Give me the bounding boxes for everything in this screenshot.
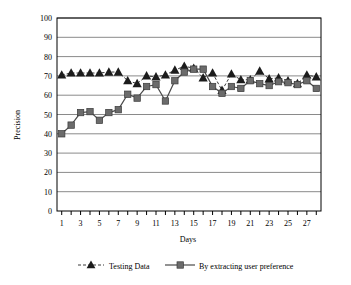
data-point (247, 78, 253, 84)
data-point (304, 78, 310, 84)
data-point (209, 83, 215, 89)
data-point (106, 109, 112, 115)
data-point (181, 69, 187, 75)
data-point (162, 98, 168, 104)
y-tick-label-90: 90 (44, 33, 52, 42)
y-tick-label-40: 40 (44, 130, 52, 139)
data-point (115, 106, 121, 112)
data-point (285, 79, 291, 85)
data-point (275, 78, 281, 84)
x-tick-label-7: 7 (116, 219, 120, 228)
data-point (294, 81, 300, 87)
data-point (191, 66, 197, 72)
x-tick-label-1: 1 (60, 219, 64, 228)
data-point (257, 80, 263, 86)
x-tick-label-15: 15 (190, 219, 198, 228)
y-tick-label-60: 60 (44, 91, 52, 100)
legend-label-by-extracting-user-preference: By extracting user preference (199, 262, 294, 271)
precision-vs-days-chart: 0102030405060708090100 13579111315171921… (0, 0, 351, 285)
data-point (87, 108, 93, 114)
x-tick-label-5: 5 (97, 219, 101, 228)
data-point (68, 122, 74, 128)
y-tick-label-80: 80 (44, 53, 52, 62)
x-tick-label-25: 25 (284, 219, 292, 228)
data-point (172, 78, 178, 84)
x-axis-title: Days (180, 235, 196, 244)
data-point (313, 85, 319, 91)
data-point (219, 90, 225, 96)
y-tick-label-50: 50 (44, 111, 52, 120)
chart-canvas: 0102030405060708090100 13579111315171921… (0, 0, 351, 285)
data-point (238, 85, 244, 91)
y-tick-label-70: 70 (44, 72, 52, 81)
x-tick-label-3: 3 (79, 219, 83, 228)
data-point (134, 95, 140, 101)
data-point (153, 81, 159, 87)
y-tick-label-100: 100 (40, 14, 52, 23)
x-tick-label-9: 9 (135, 219, 139, 228)
legend-label-testing-data: Testing Data (109, 262, 150, 271)
y-tick-label-20: 20 (44, 168, 52, 177)
square-marker-icon (177, 262, 183, 268)
data-point (200, 66, 206, 72)
data-point (96, 117, 102, 123)
data-point (125, 91, 131, 97)
data-point (266, 82, 272, 88)
x-tick-label-13: 13 (171, 219, 179, 228)
x-tick-label-27: 27 (303, 219, 311, 228)
y-tick-label-10: 10 (44, 188, 52, 197)
data-point (59, 131, 65, 137)
x-tick-label-17: 17 (209, 219, 217, 228)
x-tick-label-23: 23 (265, 219, 273, 228)
y-axis-title: Precision (13, 110, 22, 140)
data-point (143, 83, 149, 89)
chart-background (0, 0, 351, 285)
data-point (228, 83, 234, 89)
y-tick-label-0: 0 (48, 207, 52, 216)
data-point (77, 109, 83, 115)
y-tick-label-30: 30 (44, 149, 52, 158)
x-tick-label-19: 19 (227, 219, 235, 228)
x-tick-label-11: 11 (152, 219, 160, 228)
x-tick-label-21: 21 (246, 219, 254, 228)
